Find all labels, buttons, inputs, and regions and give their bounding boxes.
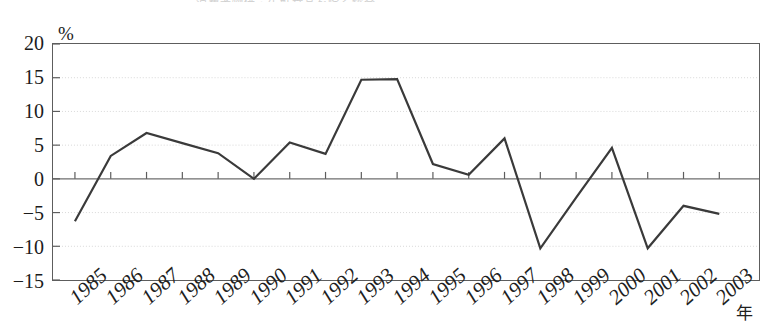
plot-area xyxy=(52,43,760,281)
y-axis-tick-label: −5 xyxy=(2,203,44,223)
plot-svg xyxy=(53,44,759,280)
y-axis-tick-label: 10 xyxy=(2,101,44,121)
x-axis-name: 年 xyxy=(736,305,753,322)
chart-title-sliver: 消費者物価・生鮮食品を除く総合 xyxy=(196,0,606,2)
y-axis-tick-label: 0 xyxy=(2,169,44,189)
data-line xyxy=(75,79,719,248)
y-axis-unit-label: % xyxy=(58,24,74,43)
x-axis-labels: 1985198619871988198919901991199219931994… xyxy=(0,281,767,329)
chart-container: 消費者物価・生鮮食品を除く総合 % 20151050−5−10−15 19851… xyxy=(0,0,767,329)
y-axis-tick-label: 20 xyxy=(2,33,44,53)
y-axis-tick-label: 5 xyxy=(2,135,44,155)
y-axis-tick-label: −10 xyxy=(2,237,44,257)
gridlines xyxy=(53,44,759,280)
y-axis-tick-label: 15 xyxy=(2,67,44,87)
y-axis-labels: 20151050−5−10−15 xyxy=(0,0,44,329)
